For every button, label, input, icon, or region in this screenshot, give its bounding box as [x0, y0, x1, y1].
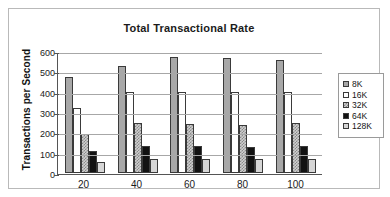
legend-label-16k: 16K — [352, 91, 367, 100]
bar-128k-100 — [308, 159, 316, 173]
legend-item-16k[interactable]: 16K — [343, 91, 380, 100]
chart-title: Total Transactional Rate — [69, 22, 309, 34]
y-tickmark-200 — [54, 134, 59, 135]
gridline-200 — [58, 134, 322, 135]
bar-16k-20 — [73, 108, 81, 173]
y-tickmark-600 — [54, 53, 59, 54]
chart-frame: Total Transactional Rate Transactions pe… — [8, 8, 380, 189]
x-tick-label-100: 100 — [273, 179, 319, 190]
plot-area: 6005004003002001000 — [57, 53, 322, 175]
y-tick-label-300: 300 — [31, 109, 55, 119]
y-tickmark-300 — [54, 114, 59, 115]
y-axis-ticks: 6005004003002001000 — [31, 53, 55, 175]
gridline-100 — [58, 155, 322, 156]
bar-64k-80 — [247, 147, 255, 173]
bar-64k-40 — [142, 146, 150, 173]
y-tickmark-500 — [54, 73, 59, 74]
bar-64k-60 — [194, 146, 202, 173]
bar-32k-100 — [292, 123, 300, 173]
bar-32k-60 — [186, 124, 194, 173]
legend-item-8k[interactable]: 8K — [343, 80, 380, 89]
y-tick-label-0: 0 — [31, 170, 55, 180]
legend-label-64k: 64K — [352, 112, 367, 121]
bar-128k-20 — [97, 162, 105, 173]
legend-swatch-8k — [343, 81, 349, 87]
y-tickmark-100 — [54, 155, 59, 156]
x-tick-label-40: 40 — [114, 179, 160, 190]
legend-item-64k[interactable]: 64K — [343, 112, 380, 121]
y-tick-label-500: 500 — [31, 68, 55, 78]
bar-64k-100 — [300, 146, 308, 173]
bar-32k-40 — [134, 123, 142, 173]
bar-128k-60 — [202, 159, 210, 173]
legend-swatch-32k — [343, 102, 349, 108]
bar-16k-100 — [284, 92, 292, 173]
bar-128k-80 — [255, 159, 263, 173]
gridline-400 — [58, 94, 322, 95]
legend-item-128k[interactable]: 128K — [343, 122, 380, 131]
legend-item-32k[interactable]: 32K — [343, 101, 380, 110]
y-tick-label-200: 200 — [31, 129, 55, 139]
gridline-600 — [58, 53, 322, 54]
plot-canvas — [57, 53, 322, 175]
bar-128k-40 — [150, 159, 158, 173]
y-tickmark-0 — [54, 175, 59, 176]
gridline-500 — [58, 73, 322, 74]
legend-swatch-128k — [343, 123, 349, 129]
legend-label-128k: 128K — [352, 122, 372, 131]
legend-label-32k: 32K — [352, 101, 367, 110]
legend-swatch-16k — [343, 92, 349, 98]
gridline-300 — [58, 114, 322, 115]
y-axis-title: Transactions per Second — [21, 45, 32, 175]
legend-swatch-64k — [343, 113, 349, 119]
bar-16k-40 — [126, 92, 134, 173]
y-tick-label-600: 600 — [31, 48, 55, 58]
y-tick-label-100: 100 — [31, 150, 55, 160]
legend: 8K16K32K64K128K — [338, 73, 384, 138]
y-tick-label-400: 400 — [31, 89, 55, 99]
bar-32k-20 — [81, 134, 89, 173]
x-axis-ticks: 20406080100 — [57, 179, 322, 190]
x-tick-label-80: 80 — [220, 179, 266, 190]
legend-label-8k: 8K — [352, 80, 362, 89]
bar-16k-60 — [178, 92, 186, 173]
x-tick-label-60: 60 — [167, 179, 213, 190]
bar-8k-20 — [65, 77, 73, 173]
bar-8k-40 — [118, 66, 126, 173]
bar-16k-80 — [231, 92, 239, 173]
bar-32k-80 — [239, 125, 247, 173]
x-tick-label-20: 20 — [61, 179, 107, 190]
bar-8k-80 — [223, 58, 231, 173]
bar-8k-100 — [276, 60, 284, 173]
y-tickmark-400 — [54, 94, 59, 95]
